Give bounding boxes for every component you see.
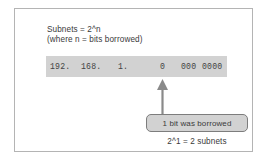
- borrowed-bit: 0: [160, 61, 165, 72]
- host-bits-group-a: 000: [181, 61, 196, 72]
- subnetting-diagram: Subnets = 2^n (where n = bits borrowed) …: [0, 0, 269, 162]
- result-label: 2^1 = 2 subnets: [146, 137, 248, 146]
- ip-address-bar: 192. 168. 1. 0 000 0000: [46, 56, 227, 77]
- octet-3: 1.: [118, 61, 128, 72]
- up-arrow-icon: [154, 79, 171, 117]
- figure-frame: Subnets = 2^n (where n = bits borrowed) …: [14, 8, 253, 152]
- callout-label: 1 bit was borrowed: [163, 119, 232, 128]
- formula-line-2: (where n = bits borrowed): [47, 35, 143, 45]
- host-bits-group-b: 0000: [202, 61, 222, 72]
- octet-2: 168.: [81, 61, 101, 72]
- formula-caption: Subnets = 2^n (where n = bits borrowed): [47, 25, 143, 45]
- formula-line-1: Subnets = 2^n: [47, 25, 143, 35]
- callout-box: 1 bit was borrowed: [146, 114, 248, 132]
- octet-1: 192.: [50, 61, 70, 72]
